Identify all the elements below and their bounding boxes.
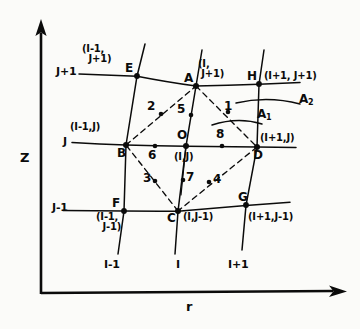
node-letter-F: F [112,197,120,209]
col-label-i-plus-1: I+1 [228,259,248,270]
node-index-H: (I+1, J+1) [264,71,317,81]
node-letter-E: E [125,62,133,74]
area-label-A2: A2 [299,93,313,107]
midpoint-label-7: 7 [186,171,194,183]
midpoint-dot-2 [159,112,164,117]
node-dot-H [256,81,262,87]
midpoint-dot-3 [153,179,158,184]
r-axis-line [41,291,333,293]
row-label-j: J [63,136,67,147]
node-letter-D: D [253,149,263,161]
midpoint-label-6: 6 [148,149,156,161]
row-label-j-minus-1: J-1 [52,202,68,213]
area-A2-base: A [299,92,308,106]
midpoint-label-3: 3 [143,172,151,184]
diagram-canvas [0,0,360,329]
grid-diagram-figure: Z r J+1 J J-1 I-1 I I+1 E A H B O D F C … [0,0,360,329]
dashed-A-to-D [196,86,257,147]
node-index-E: (I-1, J+1) [82,44,111,64]
node-letter-A: A [184,72,193,84]
node-letter-C: C [167,212,176,224]
midpoint-label-1: 1 [224,100,232,112]
midpoint-label-5: 5 [177,103,185,115]
node-index-C: (I,J-1) [183,212,213,222]
node-dot-E [134,73,140,79]
midpoint-dot-4 [207,180,212,185]
node-index-O: (I,J) [174,152,193,162]
midpoint-dot-5 [189,113,194,118]
col-label-i-minus-1: I-1 [104,259,120,270]
z-axis-label: Z [20,151,29,164]
arc-A1-leader [212,120,262,125]
midpoint-dot-7 [181,178,186,183]
midpoint-label-4: 4 [213,173,221,185]
node-index-F: (I-1, J-1) [96,212,121,232]
midpoint-label-8: 8 [216,128,224,140]
area-A1-subscript: 1 [266,113,271,122]
r-axis-label: r [186,300,192,313]
node-dot-A [193,83,199,89]
midpoint-dot-8 [220,144,225,149]
node-dot-O [183,143,189,149]
area-A2-subscript: 2 [308,98,313,107]
node-index-G: (I+1,J-1) [248,212,293,222]
area-A1-base: A [257,107,266,121]
row-label-j-plus-1: J+1 [56,66,76,77]
node-letter-O: O [177,129,187,141]
node-letter-H: H [247,70,257,82]
node-dot-F [121,208,127,214]
node-index-D: (I+1,J) [260,133,294,143]
arc-A2-leader [236,99,300,104]
node-letter-G: G [238,191,248,203]
col-label-i: I [176,259,180,270]
node-index-A: (I, J+1) [198,59,224,79]
area-label-A1: A1 [257,108,271,122]
midpoint-label-2: 2 [147,100,155,112]
node-index-B: (I-1,J) [70,122,100,132]
node-letter-B: B [117,147,126,159]
